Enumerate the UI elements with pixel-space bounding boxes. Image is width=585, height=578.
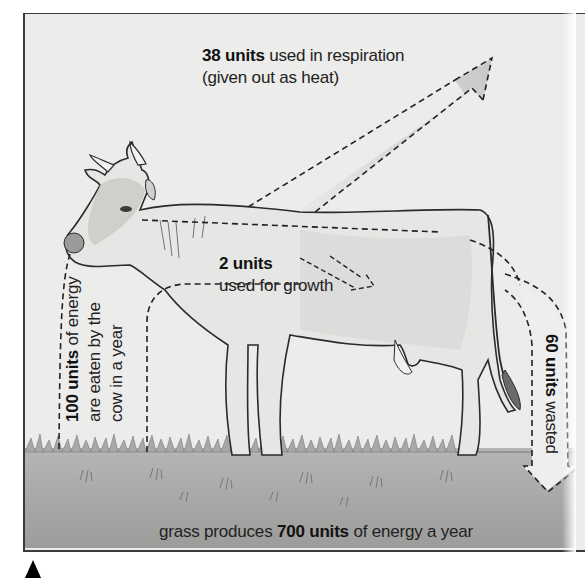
page-edge-fade (562, 0, 576, 578)
growth-units: 2 units (219, 254, 272, 273)
grass-text-pre: grass produces (159, 522, 277, 541)
growth-label: 2 units used for growth (219, 253, 333, 297)
eaten-units: 100 units (63, 350, 82, 422)
eaten-label: 100 units of energy are eaten by the cow… (62, 276, 128, 422)
respiration-label: 38 units used in respiration (given out … (202, 45, 404, 89)
cow-illustration (64, 142, 520, 455)
grass-label: grass produces 700 units of energy a yea… (159, 521, 473, 543)
respiration-text: used in respiration (265, 46, 405, 65)
growth-text: used for growth (219, 275, 333, 297)
waste-units: 60 units (542, 334, 561, 397)
respiration-units: 38 units (202, 46, 265, 65)
grass-units: 700 units (277, 522, 349, 541)
waste-label: 60 units wasted (540, 334, 562, 454)
respiration-note: (given out as heat) (202, 67, 404, 89)
waste-text: wasted (542, 397, 561, 454)
grass-text-post: of energy a year (349, 522, 473, 541)
eaten-text-line2: are eaten by the (84, 276, 106, 422)
eaten-text: of energy (63, 276, 82, 350)
eaten-text-line3: cow in a year (106, 276, 128, 422)
triangle-marker-icon (25, 560, 41, 578)
